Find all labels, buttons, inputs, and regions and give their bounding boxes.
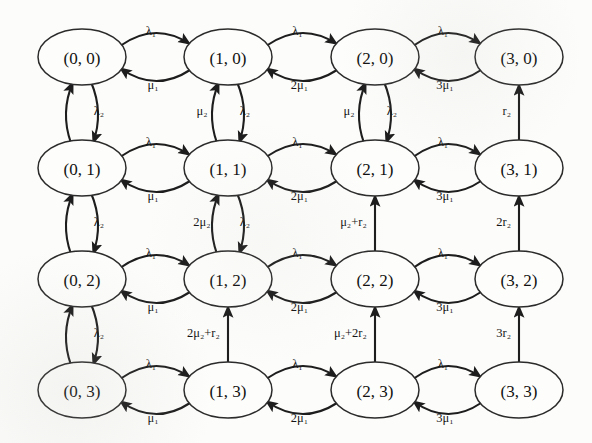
edge-label-up: r₂ <box>503 104 512 118</box>
edge-label-forward: λ₁ <box>292 24 302 38</box>
edge-label-forward: λ₁ <box>292 357 302 371</box>
edge-labels-layer: λ₁μ₁λ₁2μ₁λ₁3μ₁λ₁μ₁λ₁2μ₁λ₁3μ₁λ₁μ₁λ₁2μ₁λ₁3… <box>94 24 511 425</box>
transition-arrow-up <box>66 304 73 365</box>
transition-arrow-up <box>66 193 73 254</box>
edge-label-down: λ₂ <box>94 104 104 118</box>
edge-label-up: 2r₂ <box>496 215 511 229</box>
transition-arrow-up <box>212 82 219 143</box>
node-label: (0, 3) <box>64 382 101 401</box>
edge-label-down: λ₂ <box>94 215 104 229</box>
edge-label-up: 2μ₂+r₂ <box>187 326 220 340</box>
transition-arrow-up <box>66 82 73 143</box>
edge-label-forward: λ₁ <box>438 246 448 260</box>
edge-label-backward: 2μ₁ <box>291 300 308 314</box>
edge-label-up: μ₂ <box>196 104 207 118</box>
edge-label-backward: μ₁ <box>147 189 158 203</box>
state-node-23[interactable]: (2, 3) <box>331 362 419 418</box>
edge-label-backward: 3μ₁ <box>436 189 453 203</box>
state-node-03[interactable]: (0, 3) <box>38 362 126 418</box>
edge-label-forward: λ₁ <box>292 246 302 260</box>
edge-label-backward: μ₁ <box>147 78 158 92</box>
edge-label-up: 3r₂ <box>496 326 511 340</box>
transition-arrow-up <box>212 193 219 254</box>
state-node-22[interactable]: (2, 2) <box>331 251 419 307</box>
state-node-20[interactable]: (2, 0) <box>331 29 419 85</box>
state-transition-diagram: (0, 0)(1, 0)(2, 0)(3, 0)(0, 1)(1, 1)(2, … <box>0 0 592 443</box>
edge-label-backward: μ₁ <box>147 300 158 314</box>
node-label: (2, 3) <box>357 382 394 401</box>
node-label: (0, 1) <box>64 160 101 179</box>
edge-label-up: μ₂+2r₂ <box>334 326 367 340</box>
node-label: (1, 0) <box>210 49 247 68</box>
edge-label-forward: λ₁ <box>438 135 448 149</box>
edge-label-backward: μ₁ <box>147 411 158 425</box>
edge-label-forward: λ₁ <box>146 24 156 38</box>
edge-label-up: μ₂+r₂ <box>340 215 367 229</box>
state-node-32[interactable]: (3, 2) <box>475 251 563 307</box>
edge-label-backward: 2μ₁ <box>291 411 308 425</box>
edge-label-down: λ₂ <box>387 104 397 118</box>
transition-arrow-up <box>359 82 366 143</box>
state-node-00[interactable]: (0, 0) <box>38 29 126 85</box>
state-node-13[interactable]: (1, 3) <box>184 362 272 418</box>
edge-label-forward: λ₁ <box>438 24 448 38</box>
state-node-12[interactable]: (1, 2) <box>184 251 272 307</box>
node-label: (3, 2) <box>501 271 538 290</box>
node-label: (0, 0) <box>64 49 101 68</box>
edge-label-forward: λ₁ <box>146 135 156 149</box>
state-node-01[interactable]: (0, 1) <box>38 140 126 196</box>
edge-label-forward: λ₁ <box>146 246 156 260</box>
edge-label-backward: 2μ₁ <box>291 78 308 92</box>
edge-label-backward: 3μ₁ <box>436 411 453 425</box>
edge-label-up: 2μ₂ <box>193 215 210 229</box>
edge-label-up: μ₂ <box>343 104 354 118</box>
state-node-10[interactable]: (1, 0) <box>184 29 272 85</box>
edge-label-down: λ₂ <box>94 326 104 340</box>
edge-label-forward: λ₁ <box>292 135 302 149</box>
state-node-02[interactable]: (0, 2) <box>38 251 126 307</box>
node-label: (3, 3) <box>501 382 538 401</box>
edge-label-backward: 3μ₁ <box>436 78 453 92</box>
state-node-33[interactable]: (3, 3) <box>475 362 563 418</box>
node-label: (2, 2) <box>357 271 394 290</box>
diagram-canvas: (0, 0)(1, 0)(2, 0)(3, 0)(0, 1)(1, 1)(2, … <box>0 0 592 443</box>
node-label: (2, 0) <box>357 49 394 68</box>
state-node-11[interactable]: (1, 1) <box>184 140 272 196</box>
state-node-21[interactable]: (2, 1) <box>331 140 419 196</box>
edge-label-backward: 3μ₁ <box>436 300 453 314</box>
state-node-31[interactable]: (3, 1) <box>475 140 563 196</box>
node-label: (1, 1) <box>210 160 247 179</box>
node-label: (1, 3) <box>210 382 247 401</box>
node-label: (3, 0) <box>501 49 538 68</box>
node-label: (3, 1) <box>501 160 538 179</box>
node-label: (2, 1) <box>357 160 394 179</box>
state-node-30[interactable]: (3, 0) <box>475 29 563 85</box>
edge-label-forward: λ₁ <box>438 357 448 371</box>
edge-label-down: λ₂ <box>240 215 250 229</box>
edge-label-backward: 2μ₁ <box>291 189 308 203</box>
edge-label-down: λ₂ <box>240 104 250 118</box>
node-label: (0, 2) <box>64 271 101 290</box>
edge-label-forward: λ₁ <box>146 357 156 371</box>
node-label: (1, 2) <box>210 271 247 290</box>
